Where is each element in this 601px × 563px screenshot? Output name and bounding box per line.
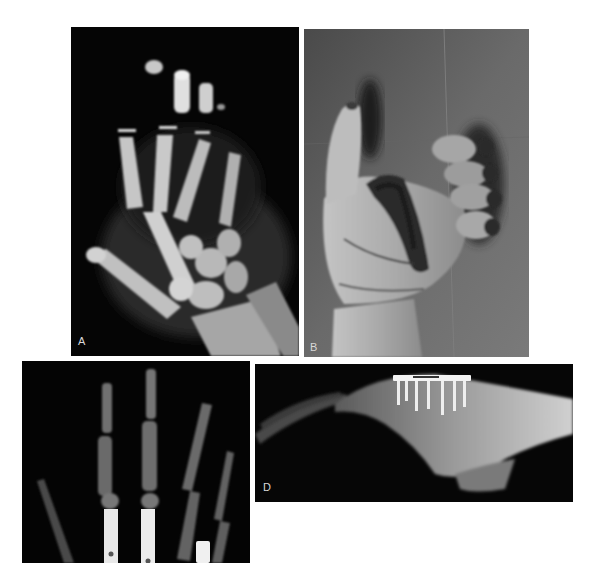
panel-c-xray <box>22 361 250 563</box>
postop-lateral-xray-image <box>255 364 573 502</box>
panel-d-xray: D <box>255 364 573 502</box>
injured-hand-photo <box>304 29 529 357</box>
panel-label-d: D <box>263 482 271 493</box>
panel-b-photo: B <box>304 29 529 357</box>
panel-a-xray: A <box>71 27 299 356</box>
panel-label-a: A <box>78 336 85 347</box>
postop-pa-xray-image <box>22 361 250 563</box>
hand-xray-image <box>71 27 299 356</box>
implant-middle <box>141 509 155 563</box>
implant-ring <box>196 541 210 563</box>
panel-label-b: B <box>310 342 317 353</box>
